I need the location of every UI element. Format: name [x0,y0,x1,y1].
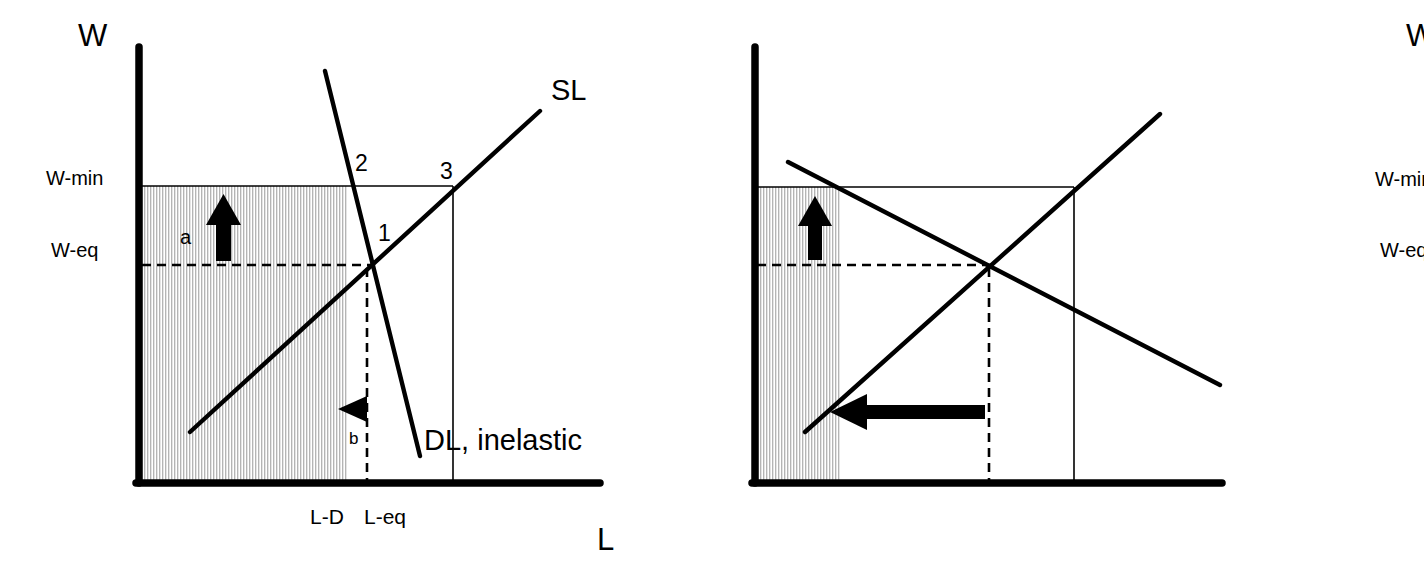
y-tick-w-eq: W-eq [51,240,98,260]
panel-elastic-graphics [712,0,1424,579]
x-axis-label: L [597,524,614,555]
figure-canvas: W L W-min W-eq L-D L-eq SL DL, inelastic… [0,0,1424,579]
x-tick-l-eq: L-eq [364,506,406,527]
curve-label-sl: SL [551,76,586,105]
panel-inelastic: W L W-min W-eq L-D L-eq SL DL, inelastic… [0,0,712,579]
arrow-left-c [830,394,985,430]
y-axis-label: W [1406,20,1424,51]
y-tick-w-min: W-min [1375,169,1424,189]
point-label-2: 2 [355,152,368,175]
shaded-area-a [142,186,348,483]
y-axis-label: W [78,20,107,51]
y-tick-w-min: W-min [46,168,103,188]
point-label-1: 1 [378,222,391,245]
demand-curve-dl-elastic [788,162,1220,385]
x-tick-l-d: L-D [310,506,344,527]
curve-label-dl-inelastic: DL, inelastic [424,426,582,455]
area-label-a: a [180,227,191,247]
panel-elastic: W L W-min W-eq L-D L-eq SL DL, elastic 2… [712,0,1424,579]
area-label-b: b [349,430,358,447]
y-tick-w-eq: W-eq [1380,240,1424,260]
shaded-area-a [757,187,840,483]
panel-inelastic-graphics [0,0,712,579]
supply-curve-sl [805,114,1160,432]
point-label-3: 3 [440,160,453,183]
